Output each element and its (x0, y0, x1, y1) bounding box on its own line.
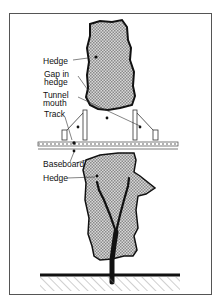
ground-hatching (40, 277, 180, 291)
label-track: Track (44, 109, 66, 119)
label-gap-line2: hedge (44, 77, 68, 87)
tunnel-mouth (62, 110, 158, 140)
label-baseboard: Baseboard (43, 159, 84, 169)
hedge-marker-dot (94, 55, 97, 58)
track-marker-dot (72, 141, 75, 144)
bottom-hedge-shape (83, 153, 155, 260)
label-hedge-bottom: Hedge (43, 173, 68, 183)
tunnel-right-dot (139, 126, 142, 129)
track (38, 142, 178, 149)
bottom-hedge-dot (96, 175, 99, 178)
baseboard-marker-dot (73, 150, 76, 153)
label-tunnel-line2: mouth (43, 98, 67, 108)
top-hedge-shape (86, 20, 135, 110)
tunnel-dot (106, 117, 109, 120)
track-side-dot (77, 126, 80, 129)
label-hedge-top: Hedge (43, 56, 68, 66)
diagram-canvas: Hedge Gap in hedge Tunnel mouth Track Ba… (0, 0, 221, 301)
